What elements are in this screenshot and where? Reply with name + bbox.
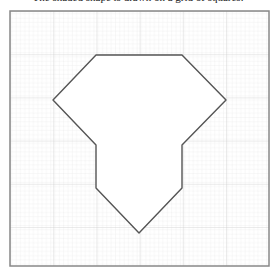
grid-diagram bbox=[0, 0, 276, 272]
